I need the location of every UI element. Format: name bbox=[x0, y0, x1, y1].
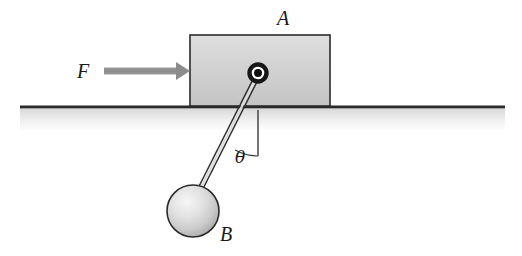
angle-theta-label: θ bbox=[235, 147, 245, 167]
force-arrow-shaft bbox=[104, 68, 176, 75]
force-f-label: F bbox=[76, 60, 90, 82]
physics-diagram-figure: A F B θ bbox=[0, 0, 522, 256]
ground-band bbox=[20, 108, 505, 130]
block-a-label: A bbox=[275, 7, 290, 29]
diagram-canvas: A F B θ bbox=[0, 0, 522, 256]
pivot-center-icon bbox=[254, 69, 262, 77]
ball-b bbox=[167, 185, 219, 237]
force-arrow-head bbox=[176, 62, 190, 80]
ball-b-label: B bbox=[220, 223, 232, 245]
